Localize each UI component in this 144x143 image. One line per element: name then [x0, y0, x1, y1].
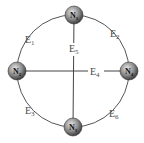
- edge-e6: [73, 71, 129, 127]
- edge-e5: [73, 15, 74, 127]
- edge-label-e3: E3: [25, 105, 35, 118]
- network-graph: E1 E2 E5 E4 E3 E6 N1 N2 N4 N3: [0, 0, 144, 143]
- edge-label-e6: E6: [109, 108, 119, 121]
- edge-e2: [74, 15, 129, 71]
- node-n2: N2: [8, 62, 26, 80]
- edge-e3: [17, 71, 73, 127]
- edge-label-e1: E1: [25, 34, 35, 47]
- node-n4: N4: [120, 62, 138, 80]
- node-n1: N1: [65, 6, 83, 24]
- edge-label-e2: E2: [110, 28, 120, 41]
- node-n3: N3: [64, 118, 82, 136]
